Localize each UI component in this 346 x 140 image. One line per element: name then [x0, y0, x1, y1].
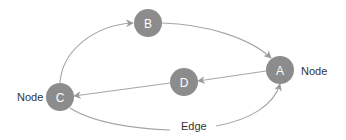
node-b-label: B: [144, 17, 152, 31]
node-b[interactable]: B: [134, 9, 162, 37]
edge-b-to-a: [162, 23, 271, 58]
node-annotation-right: Node: [301, 65, 327, 77]
edge-annotation: Edge: [181, 120, 207, 132]
edge-c-to-a-right-segment: [216, 84, 280, 126]
graph-diagram: A B C D Node Node Edge: [0, 0, 346, 140]
node-a[interactable]: A: [266, 56, 294, 84]
edge-d-to-c: [74, 83, 170, 96]
node-annotation-left: Node: [17, 91, 43, 103]
edge-c-to-b: [60, 23, 133, 83]
edge-a-to-d: [198, 71, 266, 81]
edge-c-to-a-left-segment: [70, 108, 170, 130]
node-a-label: A: [276, 64, 284, 78]
node-c-label: C: [56, 91, 65, 105]
node-d[interactable]: D: [170, 68, 198, 96]
node-d-label: D: [180, 76, 189, 90]
node-c[interactable]: C: [46, 83, 74, 111]
